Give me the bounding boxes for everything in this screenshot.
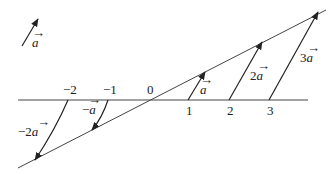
tick-label-minus1: −1 (103, 82, 117, 97)
tick-label-1: 1 (186, 103, 193, 118)
vector-diagram: a → −2 −1 0 1 2 3 a → 2a → 3a → −a → −2a… (0, 0, 335, 174)
svg-text:→: → (200, 72, 213, 87)
tick-label-3: 3 (267, 103, 274, 118)
tick-label-minus2: −2 (63, 82, 77, 97)
svg-text:→: → (257, 58, 270, 73)
svg-text:→: → (88, 92, 101, 107)
svg-text:→: → (32, 25, 45, 40)
vector-minus2a-label: −2a (18, 124, 39, 139)
svg-text:→: → (307, 40, 320, 55)
svg-text:→: → (37, 114, 50, 129)
tick-label-2: 2 (227, 103, 234, 118)
tick-label-0: 0 (147, 82, 154, 97)
